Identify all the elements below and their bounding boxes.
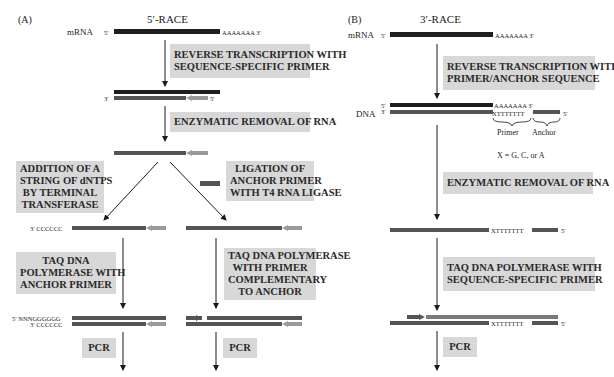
- anchor-label: Anchor: [532, 128, 556, 137]
- anchor-primer-arrowhead: [196, 315, 202, 321]
- step-taq-complementary: TAQ DNA POLYMERASE WITH PRIMER COMPLEMEN…: [224, 248, 316, 300]
- step-tailing: ADDITION OF A STRING OF dNTPS BY TERMINA…: [16, 161, 104, 213]
- step-reverse-transcription-b: REVERSE TRANSCRIPTION WITH PRIMER/ANCHOR…: [443, 56, 595, 90]
- dna-label-b: DNA: [356, 109, 376, 119]
- ligated-cdna-right: [186, 226, 282, 230]
- step-text: TAQ DNA POLYMERASE WITH: [447, 262, 591, 274]
- tail-c2-left: 3′ CCCCCC: [30, 321, 62, 328]
- step-text: POLYMERASE WITH: [20, 267, 112, 279]
- step-text: TAQ DNA POLYMERASE: [228, 250, 312, 262]
- step-rna-removal-b: ENZYMATIC REMOVAL OF RNA: [443, 172, 593, 194]
- primer-arrow-a-2: [186, 150, 208, 156]
- mrna-label-b: mRNA: [348, 30, 375, 40]
- primer-arrow-a-5: [146, 321, 166, 327]
- ssp-primer-arrowhead-b: [419, 314, 425, 320]
- step-pcr-b: PCR: [443, 337, 477, 357]
- anchor-single-b: [532, 228, 558, 232]
- step-text: BY TERMINAL: [20, 187, 100, 199]
- arrow-a-left-branch: [104, 162, 158, 220]
- step-text: PCR: [227, 342, 253, 354]
- poly-a-tail-a: AAAAAAA 3′: [222, 29, 261, 36]
- step-text: COMPLEMENTARY: [228, 274, 312, 286]
- step-text: LIGATION OF: [230, 163, 310, 175]
- ds-top-b: [426, 315, 558, 319]
- tailed-cdna-left: [72, 226, 146, 230]
- step-text: ENZYMATIC REMOVAL OF RNA: [174, 116, 306, 128]
- primer-brace: [493, 118, 531, 126]
- anchor-ds-b: [532, 321, 558, 325]
- step-pcr-right: PCR: [223, 338, 257, 358]
- anchor-5prime-b-2: 5′: [561, 227, 566, 234]
- panel-a-title: 5′-RACE: [147, 13, 188, 25]
- mrna-strand-a: [114, 29, 220, 34]
- step-text: PRIMER/ANCHOR SEQUENCE: [447, 73, 591, 85]
- ds-bottom-right: [186, 322, 282, 326]
- step-text: WITH PRIMER: [228, 262, 312, 274]
- arrow-a-right-branch: [170, 162, 226, 220]
- step-text: PCR: [86, 342, 112, 354]
- cdna-strand-b: [390, 110, 493, 114]
- step-pcr-left: PCR: [82, 338, 116, 358]
- poly-a-short-b: AAAAAAA 3′: [494, 102, 533, 109]
- cdna-5prime-a: 5′: [210, 95, 215, 102]
- panel-a-label: (A): [18, 14, 32, 26]
- anchor-5prime-b-3: 5′: [561, 320, 566, 327]
- primer-arrow-a-3: [146, 225, 166, 231]
- anchor-primer-block: [200, 181, 220, 186]
- step-text: TAQ DNA: [20, 255, 112, 267]
- step-text: PCR: [447, 341, 473, 353]
- dna-3prime-b: 3′: [381, 108, 386, 115]
- xt-sequence-b-2: XTTTTTTT: [491, 227, 524, 234]
- rna-strand-a: [114, 90, 220, 94]
- primer-arrow-a-1: [186, 95, 208, 101]
- ssp-primer-b: [407, 315, 421, 319]
- ds-bottom-b: [390, 321, 489, 325]
- step-text: SEQUENCE-SPECIFIC PRIMER: [174, 61, 306, 73]
- x-note: X = G, C, or A: [497, 151, 545, 160]
- cdna-single-a: [114, 151, 186, 155]
- ds-top-left: [72, 316, 166, 320]
- cdna-3prime-a: 3′: [104, 95, 109, 102]
- primer-arrow-a-6: [282, 321, 302, 327]
- step-rna-removal-a: ENZYMATIC REMOVAL OF RNA: [170, 112, 310, 132]
- step-text: WITH T4 RNA LIGASE: [230, 187, 310, 199]
- step-ligation: LIGATION OF ANCHOR PRIMER WITH T4 RNA LI…: [226, 161, 314, 201]
- step-text: ADDITION OF A: [20, 163, 100, 175]
- ds-bottom-left: [72, 322, 146, 326]
- anchor-strand-b: [533, 110, 560, 114]
- mrna-5prime-b: 5′: [381, 32, 386, 39]
- ds-top-right: [207, 316, 302, 320]
- panel-b-title: 3′-RACE: [420, 13, 461, 25]
- mrna-strand-b: [390, 32, 493, 37]
- xt-sequence-b-1: XTTTTTTT: [492, 110, 525, 117]
- cdna-single-b: [390, 228, 489, 232]
- mrna-label-a: mRNA: [67, 27, 94, 37]
- primer-label: Primer: [497, 128, 519, 137]
- mrna-5prime-a: 5′: [104, 29, 109, 36]
- anchor-5prime-b: 5′: [563, 110, 568, 117]
- step-text: REVERSE TRANSCRIPTION WITH: [447, 61, 591, 73]
- tail-c-left: 3′ CCCCCC: [30, 225, 62, 232]
- step-text: REVERSE TRANSCRIPTION WITH: [174, 49, 306, 61]
- step-text: TO ANCHOR: [228, 286, 312, 298]
- step-text: TRANSFERASE: [20, 199, 100, 211]
- cdna-strand-a: [114, 96, 186, 100]
- step-text: ANCHOR PRIMER: [20, 279, 112, 291]
- panel-b-label: (B): [348, 14, 361, 26]
- poly-a-tail-b: AAAAAAA 3′: [495, 32, 534, 39]
- anchor-brace: [533, 118, 560, 126]
- primer-arrow-a-4: [282, 225, 302, 231]
- step-text: ANCHOR PRIMER: [230, 175, 310, 187]
- step-taq-anchor: TAQ DNA POLYMERASE WITH ANCHOR PRIMER: [16, 252, 116, 294]
- xt-sequence-b-3: XTTTTTTT: [491, 320, 524, 327]
- rna-strand-b: [390, 103, 493, 107]
- step-text: SEQUENCE-SPECIFIC PRIMER: [447, 274, 591, 286]
- step-taq-b: TAQ DNA POLYMERASE WITH SEQUENCE-SPECIFI…: [443, 257, 595, 291]
- step-text: STRING OF dNTPS: [20, 175, 100, 187]
- step-reverse-transcription-a: REVERSE TRANSCRIPTION WITH SEQUENCE-SPEC…: [170, 44, 310, 78]
- step-text: ENZYMATIC REMOVAL OF RNA: [447, 177, 589, 189]
